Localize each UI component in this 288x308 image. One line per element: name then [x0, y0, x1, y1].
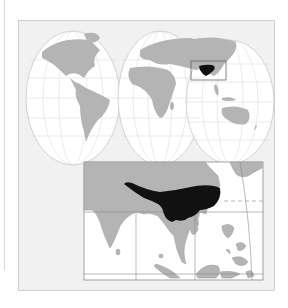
map-figure	[0, 0, 288, 308]
world-map	[26, 31, 274, 165]
inset-map	[84, 162, 263, 280]
